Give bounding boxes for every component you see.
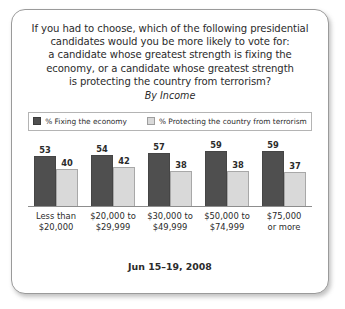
bar-group: 5442	[87, 145, 139, 207]
chart-subtitle: By Income	[26, 89, 314, 103]
bar-wrapper: 37	[284, 145, 306, 207]
bar-wrapper: 53	[34, 145, 56, 207]
chart-card: If you had to choose, which of the follo…	[11, 9, 329, 294]
bar-wrapper: 38	[170, 145, 192, 207]
title-line-2: candidates would you be more likely to v…	[26, 35, 314, 48]
title-line-4: economy, or a candidate whose greatest s…	[26, 62, 314, 75]
title-line-5: is protecting the country from terrorism…	[26, 75, 314, 88]
bar-value-label: 40	[56, 158, 78, 168]
title-line-1: If you had to choose, which of the follo…	[26, 22, 314, 35]
bar-value-label: 38	[170, 160, 192, 170]
chart-footer-date: Jun 15–19, 2008	[26, 261, 314, 285]
bar	[205, 151, 227, 207]
chart-title-block: If you had to choose, which of the follo…	[26, 22, 314, 103]
legend-entry-economy: % Fixing the economy	[33, 117, 127, 126]
chart-plot-area: 53405442573859385937	[30, 145, 310, 207]
bar	[170, 171, 192, 207]
bar	[113, 167, 135, 207]
category-label-line: $74,999	[201, 222, 253, 233]
bar-wrapper: 59	[205, 145, 227, 207]
category-label-line: or more	[258, 222, 310, 233]
legend-label-terrorism: % Protecting the country from terrorism	[159, 117, 307, 126]
legend-swatch-icon-terrorism	[147, 117, 155, 125]
bar-group: 5938	[201, 145, 253, 207]
bar-wrapper: 59	[262, 145, 284, 207]
bar-group: 5738	[144, 145, 196, 207]
category-label-line: $20,000 to	[87, 211, 139, 222]
bar-value-label: 37	[284, 161, 306, 171]
bar-value-label: 57	[148, 142, 170, 152]
category-label: Less than$20,000	[30, 211, 82, 233]
legend-swatch-icon-economy	[33, 117, 41, 125]
category-label-line: $49,999	[144, 222, 196, 233]
bar	[284, 172, 306, 207]
bar-value-label: 59	[262, 140, 284, 150]
bar-wrapper: 40	[56, 145, 78, 207]
category-label: $50,000 to$74,999	[201, 211, 253, 233]
category-label-line: Less than	[30, 211, 82, 222]
category-label: $20,000 to$29,999	[87, 211, 139, 233]
bar-wrapper: 57	[148, 145, 170, 207]
bar-value-label: 54	[91, 144, 113, 154]
bar-groups: 53405442573859385937	[30, 145, 310, 207]
bar-wrapper: 38	[227, 145, 249, 207]
bar-value-label: 38	[227, 160, 249, 170]
category-label: $75,000or more	[258, 211, 310, 233]
chart-legend: % Fixing the economy % Protecting the co…	[28, 112, 312, 131]
category-label-line: $75,000	[258, 211, 310, 222]
bar-value-label: 42	[113, 156, 135, 166]
bar	[56, 169, 78, 207]
category-label-line: $20,000	[30, 222, 82, 233]
category-label: $30,000 to$49,999	[144, 211, 196, 233]
category-labels: Less than$20,000$20,000 to$29,999$30,000…	[30, 211, 310, 233]
bar-wrapper: 54	[91, 145, 113, 207]
bar-value-label: 53	[34, 145, 56, 155]
category-label-line: $29,999	[87, 222, 139, 233]
bar	[262, 151, 284, 207]
category-label-line: $30,000 to	[144, 211, 196, 222]
bar-wrapper: 42	[113, 145, 135, 207]
legend-entry-terrorism: % Protecting the country from terrorism	[147, 117, 307, 126]
bar-value-label: 59	[205, 140, 227, 150]
chart-inner: If you had to choose, which of the follo…	[12, 10, 328, 293]
legend-label-economy: % Fixing the economy	[45, 117, 127, 126]
category-label-line: $50,000 to	[201, 211, 253, 222]
bar	[148, 153, 170, 207]
bar-group: 5340	[30, 145, 82, 207]
x-axis-line	[28, 206, 312, 207]
bar	[91, 155, 113, 207]
title-line-3: a candidate whose greatest strength is f…	[26, 48, 314, 61]
bar	[227, 171, 249, 207]
bar-group: 5937	[258, 145, 310, 207]
bar	[34, 156, 56, 207]
